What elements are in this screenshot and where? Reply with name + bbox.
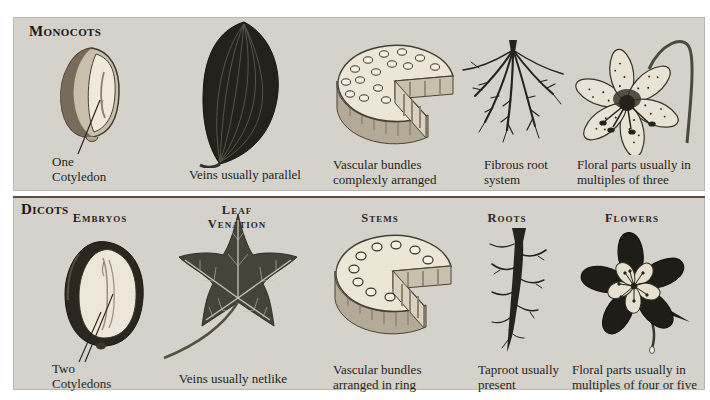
dicot-roots-caption: Taproot usually present — [478, 363, 573, 392]
parallel-vein-leaf-icon — [162, 18, 317, 168]
monocot-embryo-caption: One Cotyledon — [52, 155, 124, 184]
column-header-flowers: Flowers — [592, 212, 672, 226]
monocot-flower-caption: Floral parts usually in multiples of thr… — [577, 158, 699, 187]
monocot-roots-caption: Fibrous root system — [484, 158, 556, 187]
dicot-embryo-caption: Two Cotyledons — [52, 362, 130, 391]
column-header-stems: Stems — [340, 212, 420, 226]
monocot-dicot-comparison-figure: Monocots One Cotyledon — [0, 0, 710, 400]
dicot-leaf-caption: Veins usually netlike — [158, 372, 308, 387]
columbine-flower-icon — [568, 230, 708, 355]
taproot-illustration — [464, 226, 569, 358]
two-cotyledon-seed-icon — [45, 232, 155, 367]
dicot-flower-caption: Floral parts usually in multiples of fou… — [572, 363, 704, 392]
dicot-stem-illustration — [328, 226, 478, 341]
bean-seed-illustration — [45, 232, 155, 367]
monocots-title: Monocots — [29, 23, 101, 40]
monocot-leaf-caption: Veins usually parallel — [165, 168, 325, 183]
column-header-roots: Roots — [467, 212, 547, 226]
lily-flower-illustration — [565, 25, 710, 155]
lily-flower-icon — [565, 25, 710, 155]
one-cotyledon-seed-icon — [40, 42, 140, 160]
dicot-stem-cross-section-icon — [328, 226, 478, 341]
netlike-vein-leaf-icon — [150, 210, 315, 365]
netlike-leaf-illustration — [150, 210, 315, 365]
monocot-stem-caption: Vascular bundles complexly arranged — [333, 158, 445, 187]
parallel-leaf-illustration — [162, 18, 317, 168]
columbine-flower-illustration — [568, 230, 708, 355]
fibrous-root-system-icon — [455, 38, 570, 153]
dicot-stem-caption: Vascular bundles arranged in ring — [333, 363, 445, 392]
column-header-embryos: Embryos — [60, 212, 140, 226]
taproot-icon — [464, 226, 569, 358]
fibrous-roots-illustration — [455, 38, 570, 153]
corn-seed-illustration — [40, 42, 140, 160]
